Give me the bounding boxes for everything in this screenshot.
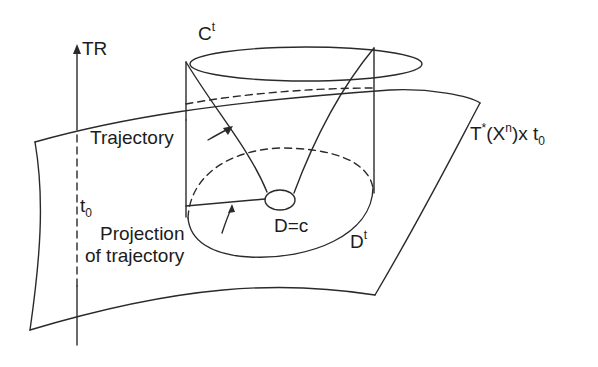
cylinder-top-label: Ct xyxy=(198,20,216,44)
phase-space-surface xyxy=(30,90,480,330)
projection-label-line2: of trajectory xyxy=(85,245,185,266)
trajectory-label: Trajectory xyxy=(90,127,174,148)
base-disc xyxy=(188,148,373,257)
base-disc-label: Dt xyxy=(350,228,368,252)
trajectory-pointer xyxy=(208,126,233,140)
time-label: t0 xyxy=(80,195,92,220)
axis-label: TR xyxy=(82,38,107,59)
projection-line xyxy=(186,199,265,206)
axis-arrow-icon xyxy=(73,44,81,54)
projection-label-line1: Projection xyxy=(100,223,185,244)
small-disc xyxy=(265,190,295,210)
projection-pointer xyxy=(222,204,235,233)
trajectory-cone xyxy=(186,48,374,193)
surface-label: T*(Xn)x t0 xyxy=(470,121,545,148)
pointer-arrow-icon xyxy=(228,204,235,213)
small-disc-label: D=c xyxy=(274,215,308,236)
trajectory-projection-diagram: TR t0 Ct Trajectory T*(Xn)x t0 Projectio… xyxy=(0,0,598,367)
